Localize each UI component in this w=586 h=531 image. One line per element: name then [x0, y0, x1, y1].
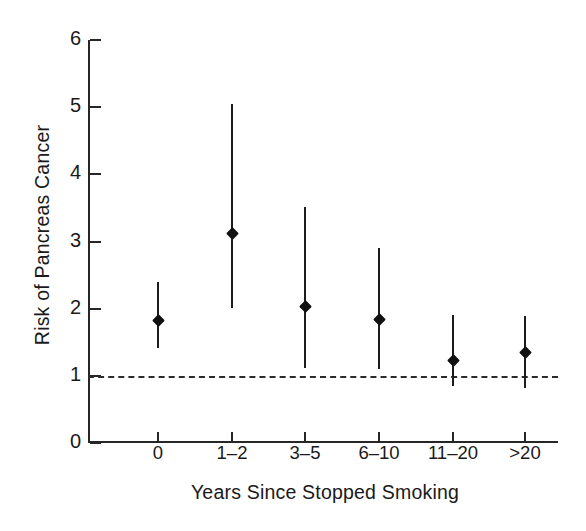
y-tick-label-5: 5	[51, 94, 81, 116]
data-point-marker-4	[447, 354, 460, 367]
y-tick-5: 5	[90, 106, 101, 108]
data-point-marker-3	[373, 313, 386, 326]
x-tick-0: 0	[157, 432, 159, 443]
data-point-marker-1	[226, 227, 239, 240]
y-tick-6: 6	[90, 39, 101, 41]
y-tick-label-6: 6	[51, 27, 81, 49]
error-bar-1	[231, 104, 233, 308]
data-point-marker-2	[299, 300, 312, 313]
y-tick-label-0: 0	[51, 430, 81, 452]
error-bar-2	[304, 207, 306, 368]
x-tick-label-5: >20	[470, 442, 580, 464]
error-bar-4	[452, 315, 454, 386]
data-point-marker-5	[519, 347, 532, 360]
y-tick-0: 0	[90, 442, 101, 444]
y-tick-4: 4	[90, 173, 101, 175]
error-bar-3	[378, 248, 380, 369]
x-tick-1: 1–2	[231, 432, 233, 443]
x-axis-title: Years Since Stopped Smoking	[90, 481, 560, 504]
y-tick-label-1: 1	[51, 363, 81, 385]
x-tick-5: >20	[524, 432, 526, 443]
y-tick-label-3: 3	[51, 229, 81, 251]
figure-pancreas-cancer-risk-chart: Risk of Pancreas Cancer Years Since Stop…	[0, 0, 586, 531]
x-tick-4: 11–20	[452, 432, 454, 443]
y-tick-label-4: 4	[51, 161, 81, 183]
y-tick-3: 3	[90, 241, 101, 243]
y-tick-2: 2	[90, 308, 101, 310]
plot-area: 0123456 01–23–56–1011–20>20	[88, 40, 558, 443]
y-tick-label-2: 2	[51, 296, 81, 318]
data-point-marker-0	[152, 314, 165, 327]
x-tick-2: 3–5	[304, 432, 306, 443]
reference-line-null-risk	[88, 376, 558, 378]
x-tick-3: 6–10	[378, 432, 380, 443]
